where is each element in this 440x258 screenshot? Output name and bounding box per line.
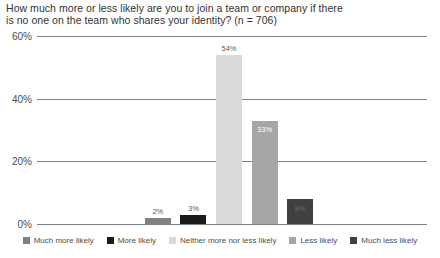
bar-value-label: 3% xyxy=(188,204,199,213)
legend-item-much-less-likely[interactable]: Much less likely xyxy=(350,236,417,245)
bar-group: 54% xyxy=(211,36,247,224)
legend-item-less-likely[interactable]: Less likely xyxy=(289,236,337,245)
bar-neither-more-nor-less-likely[interactable] xyxy=(216,55,242,224)
bar-more-likely[interactable] xyxy=(180,215,206,224)
y-axis-tick-label: 0% xyxy=(18,219,32,230)
chart-legend: Much more likelyMore likelyNeither more … xyxy=(0,236,440,245)
y-axis-tick-label: 40% xyxy=(12,93,32,104)
legend-swatch-icon xyxy=(350,237,357,244)
legend-swatch-icon xyxy=(289,237,296,244)
bar-group: 2% xyxy=(140,36,176,224)
bar-value-label: 2% xyxy=(152,207,163,216)
legend-swatch-icon xyxy=(23,237,30,244)
legend-item-label: More likely xyxy=(118,236,156,245)
legend-item-more-likely[interactable]: More likely xyxy=(107,236,156,245)
bar-less-likely[interactable] xyxy=(252,121,278,224)
y-axis-tick-label: 60% xyxy=(12,31,32,42)
bar-value-label: 33% xyxy=(257,125,272,134)
legend-item-label: Much less likely xyxy=(361,236,417,245)
bar-much-more-likely[interactable] xyxy=(145,218,171,224)
page-title: How much more or less likely are you to … xyxy=(6,2,426,27)
legend-item-much-more-likely[interactable]: Much more likely xyxy=(23,236,94,245)
bar-value-label: 54% xyxy=(221,44,236,53)
bar-group: 33% xyxy=(247,36,283,224)
chart-title-line-1: How much more or less likely are you to … xyxy=(6,2,426,14)
legend-swatch-icon xyxy=(169,237,176,244)
legend-swatch-icon xyxy=(107,237,114,244)
gridline-0: 0% xyxy=(37,224,427,225)
bar-group: 3% xyxy=(176,36,212,224)
chart-title-line-2: is no one on the team who shares your id… xyxy=(6,14,426,26)
chart-page: How much more or less likely are you to … xyxy=(0,0,440,258)
bar-value-label: 8% xyxy=(295,204,306,213)
legend-item-label: Less likely xyxy=(300,236,337,245)
legend-item-neither-more-nor-less-likely[interactable]: Neither more nor less likely xyxy=(169,236,276,245)
legend-item-label: Neither more nor less likely xyxy=(180,236,276,245)
y-axis-tick-label: 20% xyxy=(12,156,32,167)
bar-group: 8% xyxy=(282,36,318,224)
legend-item-label: Much more likely xyxy=(34,236,94,245)
bar-series: 2%3%54%33%8% xyxy=(140,36,318,224)
